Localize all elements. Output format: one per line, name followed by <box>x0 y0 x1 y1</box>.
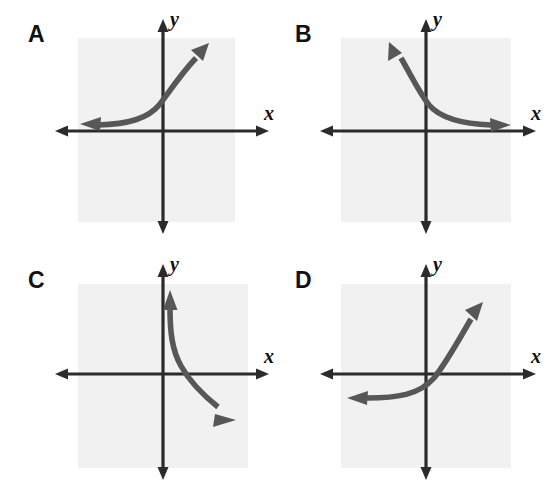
x-axis-arrow-right-a <box>256 126 269 137</box>
y-axis-arrow-top-a <box>158 19 169 32</box>
x-axis-label-c: x <box>263 345 274 367</box>
answer-choice-panel-d[interactable]: D y x <box>279 250 558 499</box>
x-axis-arrow-left-a <box>55 126 68 137</box>
y-axis-arrow-bottom-a <box>158 221 169 234</box>
y-axis-arrow-bottom-d <box>421 467 432 480</box>
x-axis-label-a: x <box>263 102 274 124</box>
graph-d: D y x <box>279 250 558 499</box>
x-axis-arrow-right-c <box>256 369 269 380</box>
graph-b: B y x <box>279 0 558 249</box>
x-axis-arrow-right-b <box>523 126 536 137</box>
x-axis-arrow-right-d <box>523 369 536 380</box>
x-axis-arrow-left-b <box>320 126 333 137</box>
y-axis-arrow-top-b <box>421 19 432 32</box>
x-axis-arrow-left-d <box>320 369 333 380</box>
x-axis-label-b: x <box>530 102 541 124</box>
panel-letter-a: A <box>28 21 45 47</box>
y-axis-arrow-top-d <box>421 264 432 277</box>
answer-choice-panel-b[interactable]: B y x <box>279 0 558 249</box>
y-axis-label-a: y <box>168 8 179 31</box>
y-axis-arrow-bottom-b <box>421 221 432 234</box>
x-axis-arrow-left-c <box>55 369 68 380</box>
y-axis-label-b: y <box>431 8 442 31</box>
graph-c: C y x <box>0 250 279 499</box>
y-axis-label-c: y <box>168 253 179 276</box>
panel-letter-b: B <box>295 21 312 47</box>
graph-a: A y x <box>0 0 279 249</box>
answer-choice-panel-c[interactable]: C y x <box>0 250 279 499</box>
panel-letter-d: D <box>295 267 312 293</box>
y-axis-label-d: y <box>431 253 442 276</box>
answer-choice-panel-a[interactable]: A y x <box>0 0 279 249</box>
panel-letter-c: C <box>28 267 45 293</box>
y-axis-arrow-top-c <box>158 264 169 277</box>
multiple-choice-graph-figure: A y x B y x <box>0 0 558 499</box>
x-axis-label-d: x <box>530 345 541 367</box>
y-axis-arrow-bottom-c <box>158 467 169 480</box>
